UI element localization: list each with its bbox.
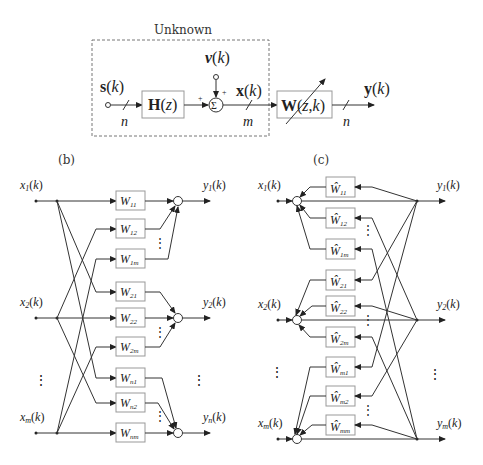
ellipsis: ⋮ <box>154 325 166 339</box>
diagram-canvas: Unknown s(k) n H(z) + v(k) + Σ x(k) m W(… <box>0 0 483 465</box>
dim-output: n <box>343 114 350 129</box>
panel-c: (c) x1(k) x2(k) xm(k) ⋮ Ŵ11 Ŵ12 Ŵ1m Ŵ21 … <box>257 153 461 444</box>
filter-wn2: Wn2 <box>116 393 145 412</box>
ellipsis: ⋮ <box>362 223 374 237</box>
ellipsis: ⋮ <box>362 403 374 417</box>
dim-mixed: m <box>243 114 253 129</box>
summing-junction <box>293 316 302 325</box>
ellipsis: ⋮ <box>154 409 166 423</box>
input-label-x2: x2(k) <box>19 295 43 310</box>
sum-symbol: Σ <box>211 100 217 111</box>
filter-w1m: W1m <box>116 249 145 268</box>
filter-w21-hat: Ŵ21 <box>326 270 355 290</box>
source-label: s(k) <box>100 78 124 96</box>
filter-w22-hat: Ŵ22 <box>326 296 355 316</box>
filter-w1m-hat: Ŵ1m <box>326 239 355 259</box>
panel-c-label: (c) <box>313 153 329 167</box>
output-label-yn: yn(k) <box>202 410 226 425</box>
summing-junction <box>174 197 183 206</box>
output-label: y(k) <box>364 80 390 98</box>
filter-w12-hat: Ŵ12 <box>326 208 355 228</box>
ellipsis: ⋮ <box>192 373 206 388</box>
filter-w11-hat: Ŵ11 <box>326 177 355 197</box>
dim-source: n <box>121 114 128 129</box>
ellipsis: ⋮ <box>428 367 442 382</box>
ellipsis: ⋮ <box>154 236 166 250</box>
input-label-xm: xm(k) <box>257 416 282 431</box>
input-label-xm: xm(k) <box>19 410 44 425</box>
plus-sign: + <box>198 94 203 103</box>
filter-w21: W21 <box>116 282 145 301</box>
source-terminal <box>106 103 111 108</box>
filter-w22: W22 <box>116 308 145 327</box>
demixing-block-label: W(z,k) <box>281 97 325 115</box>
filter-wm2-hat: Ŵm2 <box>326 386 355 406</box>
filter-wnm: Wnm <box>116 423 145 442</box>
filter-w2m-hat: Ŵ2m <box>326 327 355 347</box>
summing-junction <box>174 314 183 323</box>
summing-junction <box>293 197 302 206</box>
filter-w11: W11 <box>116 191 145 210</box>
summing-junction <box>174 429 183 438</box>
input-label-x1: x1(k) <box>19 178 43 193</box>
panel-a: Unknown s(k) n H(z) + v(k) + Σ x(k) m W(… <box>92 23 390 136</box>
unknown-label: Unknown <box>154 23 212 37</box>
mixing-block-label: H(z) <box>148 96 177 114</box>
output-label-y1: y1(k) <box>202 178 226 193</box>
panel-b: (b) x1(k) x2(k) xm(k) ⋮ W11 W12 W1m W21 … <box>19 153 226 442</box>
output-label-y2: y2(k) <box>436 297 460 312</box>
mixed-label: x(k) <box>236 82 262 100</box>
output-label-ym: ym(k) <box>436 416 461 431</box>
summing-junction <box>293 435 302 444</box>
filter-wm1-hat: Ŵm1 <box>326 357 355 377</box>
noise-terminal <box>214 75 219 80</box>
filter-w2m: W2m <box>116 337 145 356</box>
filter-wn1: Wn1 <box>116 368 145 387</box>
filter-wmm-hat: Ŵmm <box>326 415 355 435</box>
ellipsis: ⋮ <box>270 365 284 380</box>
input-label-x2: x2(k) <box>257 297 281 312</box>
plus-sign: + <box>222 88 227 97</box>
ellipsis: ⋮ <box>362 313 374 327</box>
panel-b-label: (b) <box>58 153 75 167</box>
output-label-y2: y2(k) <box>202 295 226 310</box>
ellipsis: ⋮ <box>34 373 48 388</box>
filter-w12: W12 <box>116 219 145 238</box>
output-label-y1: y1(k) <box>436 178 460 193</box>
noise-label: v(k) <box>205 49 230 67</box>
input-label-x1: x1(k) <box>257 178 281 193</box>
